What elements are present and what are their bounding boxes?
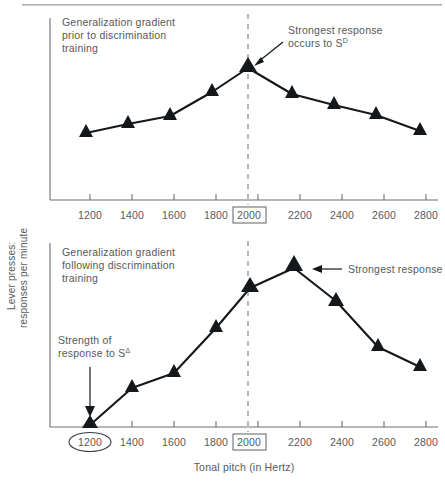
top-panel-caption-line1: Generalization gradient bbox=[62, 16, 175, 28]
bottom-tick-label-2000: 2000 bbox=[237, 436, 261, 448]
top-tick-label-1800: 1800 bbox=[204, 209, 228, 221]
top-tick-label-2600: 2600 bbox=[372, 209, 396, 221]
bottom-panel-caption-line1: Generalization gradient bbox=[62, 246, 175, 258]
x-axis-title: Tonal pitch (in Hertz) bbox=[194, 461, 295, 473]
bottom-panel-marker-2600 bbox=[371, 338, 385, 351]
top-tick-label-1600: 1600 bbox=[162, 209, 186, 221]
bottom-tick-label-2200: 2200 bbox=[288, 436, 312, 448]
top-panel-marker-1200 bbox=[79, 124, 93, 137]
bottom-panel-annotation-strength-response: Strength of response to SΔ bbox=[58, 334, 130, 417]
y-axis-label-line1: Lever presses: bbox=[6, 242, 17, 310]
bottom-tick-label-1800: 1800 bbox=[204, 436, 228, 448]
bottom-annotation-strength-line2: response to SΔ bbox=[58, 347, 130, 359]
top-panel-ticks bbox=[90, 194, 426, 200]
top-panel-annotation-strongest-response: Strongest response occurs to SD bbox=[254, 24, 383, 66]
bottom-tick-label-2600: 2600 bbox=[372, 436, 396, 448]
bottom-panel-marker-1600 bbox=[167, 364, 181, 377]
bottom-tick-label-1400: 1400 bbox=[120, 436, 144, 448]
top-tick-label-2800: 2800 bbox=[414, 209, 438, 221]
bottom-tick-label-1200: 1200 bbox=[78, 436, 102, 448]
top-annotation-line1: Strongest response bbox=[288, 24, 383, 36]
top-annotation-line2: occurs to SD bbox=[288, 37, 348, 49]
y-axis-label: Lever presses: responses per minute bbox=[6, 228, 29, 328]
top-panel-marker-1400 bbox=[121, 115, 135, 128]
top-panel-markers bbox=[79, 57, 427, 137]
y-axis-label-line2: responses per minute bbox=[18, 228, 29, 328]
top-tick-label-1400: 1400 bbox=[120, 209, 144, 221]
top-panel-caption: Generalization gradient prior to discrim… bbox=[62, 16, 175, 54]
top-panel-series-line bbox=[86, 68, 420, 133]
top-panel-caption-line2: prior to discrimination bbox=[62, 29, 166, 41]
bottom-panel-markers bbox=[82, 255, 427, 428]
top-tick-label-1200: 1200 bbox=[78, 209, 102, 221]
top-tick-label-2200: 2200 bbox=[288, 209, 312, 221]
bottom-tick-label-1600: 1600 bbox=[162, 436, 186, 448]
bottom-panel-marker-2400 bbox=[328, 292, 344, 306]
top-tick-label-2000: 2000 bbox=[237, 209, 261, 221]
bottom-panel-annotation-strongest-response: Strongest response bbox=[312, 263, 443, 275]
bottom-panel: Generalization gradient following discri… bbox=[50, 241, 443, 473]
bottom-annotation-strength-line1: Strength of bbox=[58, 334, 112, 346]
bottom-panel-caption-line3: training bbox=[62, 272, 98, 284]
bottom-panel-marker-2200 bbox=[285, 255, 303, 271]
figure-page: Lever presses: responses per minute bbox=[0, 0, 445, 484]
top-tick-label-2400: 2400 bbox=[330, 209, 354, 221]
top-panel-marker-2600 bbox=[369, 106, 383, 119]
bottom-panel-ticks bbox=[90, 421, 426, 427]
top-panel-marker-2400 bbox=[327, 96, 341, 109]
bottom-annotation-strength-superscript: Δ bbox=[125, 347, 130, 354]
top-annotation-superscript: D bbox=[343, 37, 348, 44]
bottom-panel-tick-labels: 1200 1400 1600 1800 2000 2200 2400 2600 … bbox=[69, 433, 438, 452]
bottom-annotation-strongest-label: Strongest response bbox=[348, 263, 443, 275]
top-panel-tick-labels: 1200 1400 1600 1800 2000 2200 2400 2600 … bbox=[78, 207, 438, 223]
bottom-panel-caption-line2: following discrimination bbox=[62, 259, 175, 271]
top-panel-caption-line3: training bbox=[62, 42, 98, 54]
bottom-tick-label-2800: 2800 bbox=[414, 436, 438, 448]
bottom-panel-caption: Generalization gradient following discri… bbox=[62, 246, 175, 284]
top-panel: Generalization gradient prior to discrim… bbox=[50, 14, 438, 223]
top-panel-marker-2000 bbox=[239, 57, 257, 72]
generalization-gradient-figure: Lever presses: responses per minute bbox=[0, 0, 445, 484]
bottom-tick-label-2400: 2400 bbox=[330, 436, 354, 448]
